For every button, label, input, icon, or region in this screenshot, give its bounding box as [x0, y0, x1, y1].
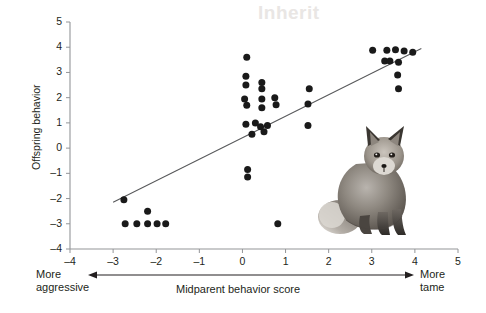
right-annotation-line1: More	[420, 268, 445, 280]
x-tick-label: 4	[395, 255, 435, 267]
figure-container: Inherit –4–3–2–1012345–4–3–2–1012345 Off…	[0, 0, 486, 313]
x-tick-label: 5	[438, 255, 478, 267]
x-tick-label: 1	[266, 255, 306, 267]
left-annotation: More aggressive	[36, 268, 89, 294]
left-annotation-line2: aggressive	[36, 281, 89, 293]
x-tick-label: –2	[136, 255, 176, 267]
x-tick-label: 2	[309, 255, 349, 267]
x-tick-label: 3	[352, 255, 392, 267]
left-annotation-line1: More	[36, 268, 61, 280]
x-tick-label: –3	[93, 255, 133, 267]
y-tick-label: –3	[0, 217, 62, 229]
x-tick-label: 0	[222, 255, 262, 267]
y-tick-label: 5	[0, 15, 62, 27]
y-tick-label: –2	[0, 192, 62, 204]
x-tick-label: –4	[50, 255, 90, 267]
x-tick-label: –1	[179, 255, 219, 267]
right-annotation: More tame	[420, 268, 445, 294]
y-tick-label: 4	[0, 40, 62, 52]
y-tick-label: –4	[0, 242, 62, 254]
y-axis-label: Offspring behavior	[30, 84, 42, 170]
y-tick-label: 3	[0, 65, 62, 77]
right-annotation-line2: tame	[420, 281, 444, 293]
plot-axes	[66, 22, 458, 253]
x-axis-label: Midparent behavior score	[176, 283, 300, 295]
